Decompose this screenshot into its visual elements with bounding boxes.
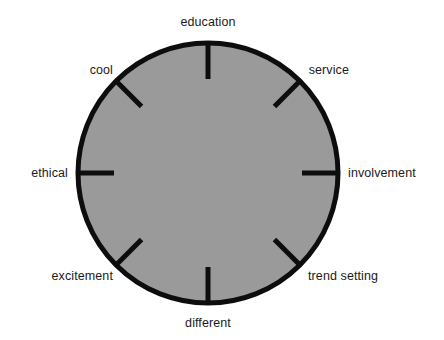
spoke-label-service: service [309, 63, 349, 77]
spoke-label-education: education [180, 15, 235, 29]
spoke-label-different: different [185, 316, 231, 330]
spoke-label-excitement: excitement [52, 269, 113, 283]
spoke-label-involvement: involvement [348, 166, 416, 180]
spoke-label-trend-setting: trend setting [308, 269, 378, 283]
spoke-label-cool: cool [90, 63, 113, 77]
spoke-label-ethical: ethical [31, 166, 68, 180]
figure-canvas: education service involvement trend sett… [0, 0, 444, 340]
